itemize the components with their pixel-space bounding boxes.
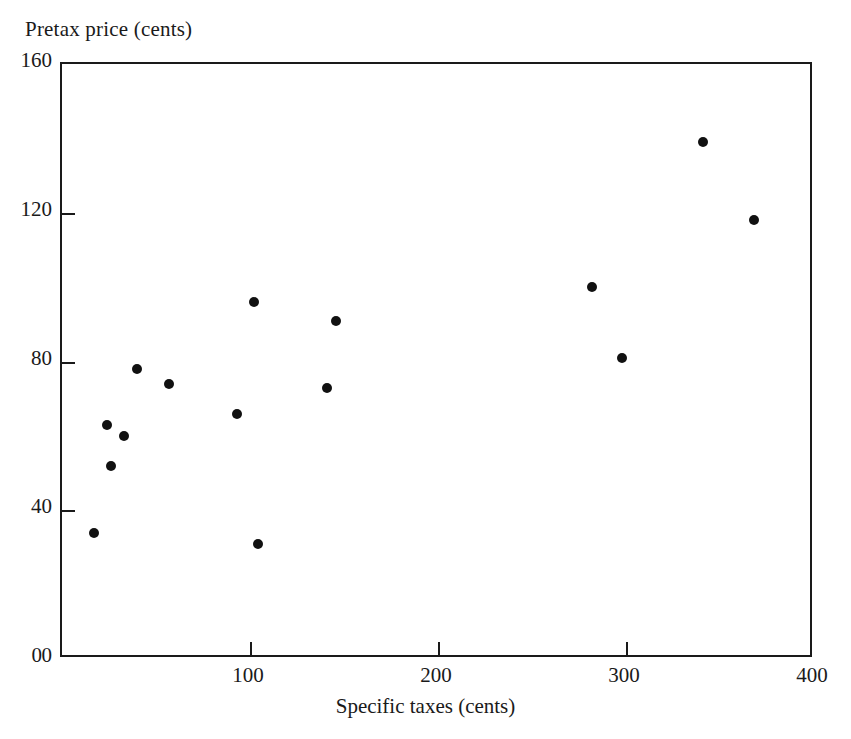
x-tick-label: 400 bbox=[777, 663, 847, 688]
y-tick-mark bbox=[62, 510, 75, 512]
data-point bbox=[322, 383, 332, 393]
x-tick-label: 0 bbox=[0, 643, 42, 668]
data-point bbox=[698, 137, 708, 147]
x-axis-title: Specific taxes (cents) bbox=[0, 694, 851, 719]
y-tick-mark bbox=[62, 213, 75, 215]
data-point bbox=[132, 364, 142, 374]
data-point bbox=[253, 539, 263, 549]
y-tick-mark bbox=[62, 362, 75, 364]
plot-frame bbox=[60, 62, 812, 657]
data-point bbox=[331, 316, 341, 326]
y-tick-label: 160 bbox=[0, 48, 52, 73]
x-tick-mark bbox=[250, 642, 252, 655]
data-point bbox=[749, 215, 759, 225]
data-point bbox=[89, 528, 99, 538]
y-tick-label: 120 bbox=[0, 197, 52, 222]
data-point bbox=[164, 379, 174, 389]
data-point bbox=[617, 353, 627, 363]
scatter-plot-figure: Pretax price (cents) 0408012016001002003… bbox=[0, 0, 851, 739]
data-point bbox=[587, 282, 597, 292]
x-tick-mark bbox=[626, 642, 628, 655]
data-point bbox=[232, 409, 242, 419]
x-tick-mark bbox=[438, 642, 440, 655]
data-point bbox=[106, 461, 116, 471]
data-point bbox=[102, 420, 112, 430]
y-tick-label: 80 bbox=[0, 346, 52, 371]
y-axis-title: Pretax price (cents) bbox=[25, 17, 192, 42]
data-point bbox=[119, 431, 129, 441]
x-tick-label: 300 bbox=[589, 663, 659, 688]
y-tick-label: 40 bbox=[0, 494, 52, 519]
data-point bbox=[249, 297, 259, 307]
x-tick-label: 200 bbox=[401, 663, 471, 688]
x-tick-label: 100 bbox=[213, 663, 283, 688]
plot-area bbox=[62, 64, 810, 655]
